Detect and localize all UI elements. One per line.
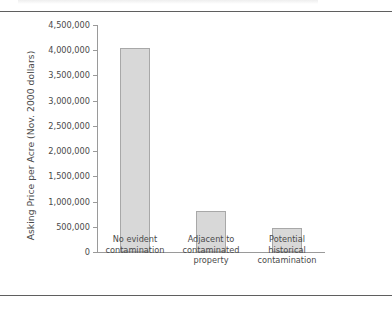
y-tick-label: 0 [85,247,90,257]
y-tick-mark [93,126,97,127]
bottom-divider-rule [0,295,392,296]
y-tick-label: 4,500,000 [48,20,90,30]
x-category-label-line: contaminated [168,245,254,256]
x-category-label-line: Potential [244,234,330,245]
y-tick-mark [93,202,97,203]
y-axis-title: Asking Price per Acre (Nov. 2000 dollars… [25,26,36,266]
y-tick-mark [93,50,97,51]
y-tick-label: 500,000 [56,222,90,232]
plot-area: 0500,0001,000,0001,500,0002,000,0002,500… [97,25,325,252]
x-category-label: No evidentcontamination [92,234,178,255]
y-tick-label: 1,500,000 [48,171,90,181]
y-tick-label: 1,000,000 [48,197,90,207]
x-category-label-line: contamination [92,245,178,256]
y-tick-label: 2,500,000 [48,121,90,131]
x-category-label: Potentialhistoricalcontamination [244,234,330,266]
figure-container: Asking Price per Acre (Nov. 2000 dollars… [0,0,392,312]
y-tick-mark [93,25,97,26]
y-tick-mark [93,176,97,177]
scan-artifact-sliver [18,0,318,4]
x-category-label-line: historical [244,245,330,256]
y-tick-label: 3,500,000 [48,70,90,80]
y-tick-mark [93,151,97,152]
x-category-label-line: No evident [92,234,178,245]
y-tick-mark [93,75,97,76]
bar [120,48,150,252]
x-category-label: Adjacent tocontaminatedproperty [168,234,254,266]
y-axis-line [97,25,98,252]
y-tick-label: 4,000,000 [48,45,90,55]
x-category-label-line: contamination [244,255,330,266]
y-tick-label: 3,000,000 [48,96,90,106]
x-category-label-line: Adjacent to [168,234,254,245]
y-tick-mark [93,101,97,102]
x-category-label-line: property [168,255,254,266]
y-tick-label: 2,000,000 [48,146,90,156]
y-tick-mark [93,227,97,228]
top-divider-rule [0,11,392,12]
